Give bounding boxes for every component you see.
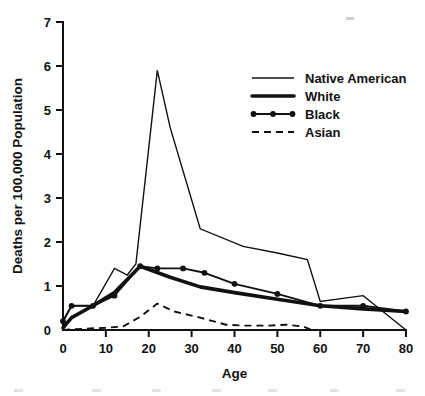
series-marker-black [154, 266, 160, 272]
legend-label: Black [305, 107, 340, 122]
plot-area [60, 70, 409, 330]
series-marker-black [180, 266, 186, 272]
x-tick-label-10: 10 [99, 341, 113, 356]
x-tick-label-20: 20 [142, 341, 156, 356]
y-tick-label-3: 3 [44, 191, 51, 206]
x-tick-label-60: 60 [313, 341, 327, 356]
line-chart: 0123456701020304050607080AgeDeaths per 1… [0, 0, 425, 396]
scan-artifact-bottom-row [14, 389, 405, 392]
series-marker-black [317, 303, 323, 309]
series-marker-black [112, 293, 118, 299]
legend-label: Native American [305, 71, 406, 86]
x-tick-label-70: 70 [356, 341, 370, 356]
legend: Native AmericanWhiteBlackAsian [251, 71, 407, 140]
scan-artifact-speck [346, 17, 354, 20]
series-marker-black [90, 303, 96, 309]
x-tick-label-50: 50 [270, 341, 284, 356]
legend-swatch-marker [290, 111, 296, 117]
y-tick-label-1: 1 [44, 279, 51, 294]
y-axis-title: Deaths per 100,000 Population [10, 78, 25, 274]
y-tick-label-2: 2 [44, 235, 51, 250]
y-tick-label-0: 0 [44, 323, 51, 338]
series-marker-black [202, 270, 208, 276]
legend-swatch-marker [270, 111, 276, 117]
legend-label: White [305, 89, 340, 104]
y-tick-label-5: 5 [44, 103, 51, 118]
figure-panel: 0123456701020304050607080AgeDeaths per 1… [0, 0, 425, 396]
series-marker-black [69, 303, 75, 309]
x-tick-label-30: 30 [184, 341, 198, 356]
series-marker-black [274, 291, 280, 297]
y-tick-label-6: 6 [44, 59, 51, 74]
y-tick-label-4: 4 [44, 147, 52, 162]
x-tick-label-0: 0 [59, 341, 66, 356]
legend-item-native-american: Native American [252, 71, 406, 86]
series-marker-black [360, 303, 366, 309]
x-tick-label-80: 80 [399, 341, 413, 356]
x-tick-label-40: 40 [227, 341, 241, 356]
axes-layer: 0123456701020304050607080AgeDeaths per 1… [10, 15, 413, 381]
series-marker-black [232, 281, 238, 287]
series-marker-black [403, 309, 409, 315]
legend-item-asian: Asian [252, 125, 340, 140]
legend-swatch-marker [251, 111, 257, 117]
legend-item-black: Black [251, 107, 341, 122]
y-tick-label-7: 7 [44, 15, 51, 30]
x-axis-title: Age [222, 366, 248, 381]
legend-label: Asian [305, 125, 340, 140]
series-marker-black [137, 263, 143, 269]
legend-item-white: White [252, 89, 340, 104]
